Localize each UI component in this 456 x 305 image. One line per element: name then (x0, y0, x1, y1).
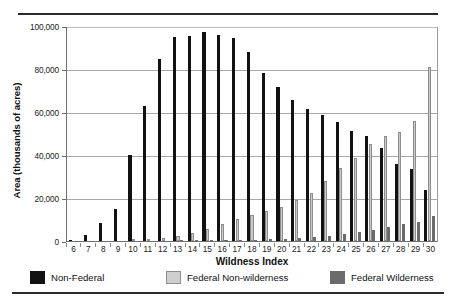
y-axis-tick-label: 100,000 (30, 22, 59, 32)
bar-group (156, 27, 171, 241)
top-divider (18, 13, 438, 15)
x-axis-tick-label: 23 (319, 243, 334, 257)
legend-label: Federal Wilderness (351, 272, 434, 283)
bar-group (319, 27, 334, 241)
bar-group (289, 27, 304, 241)
bar-federal-wilderness (372, 230, 375, 241)
x-axis-tick-label: 16 (215, 243, 230, 257)
x-axis-tick-label: 18 (245, 243, 260, 257)
plot-area (66, 27, 438, 242)
bar-federal-wilderness (358, 232, 361, 241)
bar-non-federal (99, 223, 102, 241)
dark-gray-square-icon (330, 271, 345, 284)
light-gray-square-icon (166, 271, 181, 284)
bar-federal-wilderness (417, 222, 420, 241)
x-axis-tick-label: 9 (111, 243, 126, 257)
bar-group (67, 27, 82, 241)
bar-federal-wilderness (239, 240, 242, 241)
x-axis-tick-label: 24 (334, 243, 349, 257)
x-axis-tick-label: 20 (274, 243, 289, 257)
x-axis-tick-label: 27 (378, 243, 393, 257)
x-axis-tick-label: 28 (393, 243, 408, 257)
bar-federal-wilderness (313, 237, 316, 241)
x-axis-tick-label: 6 (66, 243, 81, 257)
legend-label: Non-Federal (51, 272, 104, 283)
bar-group (363, 27, 378, 241)
bar-group (215, 27, 230, 241)
bar-federal-wilderness (402, 224, 405, 241)
bar-group (185, 27, 200, 241)
black-square-icon (30, 271, 45, 284)
bar-federal-wilderness (195, 240, 198, 241)
y-axis-tick-label: 40,000 (35, 151, 59, 161)
bar-federal-non-wilderness (310, 193, 313, 241)
bar-group (378, 27, 393, 241)
bar-group (141, 27, 156, 241)
bar-group (333, 27, 348, 241)
bar-group (407, 27, 422, 241)
x-axis-tick-label: 29 (408, 243, 423, 257)
x-axis-tick-label: 17 (230, 243, 245, 257)
bar-non-federal (114, 209, 117, 241)
bar-federal-non-wilderness (428, 67, 431, 241)
y-axis-title: Area (thousands of acres) (11, 46, 22, 236)
bar-federal-wilderness (254, 240, 257, 242)
legend-item-federal-non-wilderness: Federal Non-wilderness (166, 271, 288, 284)
bar-federal-wilderness (210, 240, 213, 241)
bar-federal-wilderness (298, 238, 301, 241)
bar-federal-wilderness (387, 227, 390, 241)
figure: Area (thousands of acres) 020,00040,0006… (0, 0, 456, 305)
bar-non-federal (247, 52, 250, 241)
x-axis-tick-labels: 6789101112131415161718192021222324252627… (66, 243, 438, 257)
bar-group (245, 27, 260, 241)
bar-federal-wilderness (180, 240, 183, 241)
bar-group (171, 27, 186, 241)
bar-federal-non-wilderness (384, 136, 387, 241)
bar-non-federal (69, 240, 72, 241)
legend-label: Federal Non-wilderness (187, 272, 288, 283)
bar-group (111, 27, 126, 241)
bar-group (230, 27, 245, 241)
bar-federal-non-wilderness (206, 229, 209, 241)
bar-non-federal (217, 35, 220, 241)
x-axis-tick-label: 30 (423, 243, 438, 257)
bar-group (200, 27, 215, 241)
bar-group (304, 27, 319, 241)
bar-group (393, 27, 408, 241)
bar-federal-non-wilderness (132, 239, 135, 241)
x-axis-title: Wildness Index (66, 256, 438, 267)
bar-federal-non-wilderness (280, 207, 283, 241)
x-axis-tick-label: 19 (259, 243, 274, 257)
bar-non-federal (202, 32, 205, 241)
bar-non-federal (232, 38, 235, 241)
x-axis-tick-label: 22 (304, 243, 319, 257)
bar-federal-non-wilderness (339, 168, 342, 241)
bar-federal-non-wilderness (295, 200, 298, 241)
y-axis-tick-label: 20,000 (35, 194, 59, 204)
bar-group (82, 27, 97, 241)
x-axis-tick-label: 10 (126, 243, 141, 257)
y-axis-tick-label: 0 (55, 237, 59, 247)
bar-federal-non-wilderness (265, 211, 268, 241)
x-axis-tick-label: 12 (155, 243, 170, 257)
bar-non-federal (188, 36, 191, 241)
bar-federal-wilderness (328, 236, 331, 241)
bar-group (422, 27, 437, 241)
bottom-divider (12, 292, 444, 294)
bar-non-federal (84, 235, 87, 241)
x-axis-tick-label: 21 (289, 243, 304, 257)
bar-group (97, 27, 112, 241)
legend-item-non-federal: Non-Federal (30, 271, 104, 284)
bar-non-federal (143, 106, 146, 241)
bar-federal-non-wilderness (354, 158, 357, 241)
bar-non-federal (158, 59, 161, 241)
bar-group (126, 27, 141, 241)
bar-non-federal (128, 155, 131, 241)
bar-group (259, 27, 274, 241)
x-axis-tick-label: 8 (96, 243, 111, 257)
legend: Non-Federal Federal Non-wilderness Feder… (18, 270, 442, 288)
bar-series-container (67, 27, 437, 241)
bar-federal-wilderness (224, 240, 227, 241)
bar-group (348, 27, 363, 241)
x-axis-tick-label: 26 (364, 243, 379, 257)
